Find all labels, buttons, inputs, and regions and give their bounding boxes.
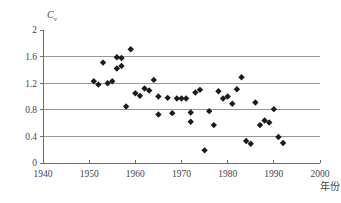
chart-container: 00.40.81.21.62 1940195019601970198019902… [0,0,341,203]
x-axis-title: 年份 [320,180,340,192]
data-point [151,77,157,83]
data-point [123,103,129,109]
y-axis-title: Cv [47,9,58,23]
data-point [252,99,258,105]
data-point [271,106,277,112]
data-point [238,74,244,80]
data-point [275,134,281,140]
data-point [188,119,194,125]
y-tick-label: 1.6 [25,52,37,62]
tick-marks-group [40,30,320,163]
data-point [183,95,189,101]
x-tick-label: 1940 [34,169,53,179]
data-point [229,101,235,107]
y-tick-label: 0.8 [25,105,37,115]
data-points-group [91,46,287,153]
data-point [164,95,170,101]
data-point [169,110,175,116]
data-point [128,46,134,52]
y-axis-tick-labels: 00.40.81.21.62 [25,25,37,168]
data-point [95,81,101,87]
data-point [234,86,240,92]
data-point [155,111,161,117]
y-axis-title-subscript: v [54,15,58,23]
y-tick-label: 0.4 [25,132,37,142]
data-point [155,93,161,99]
data-point [280,140,286,146]
x-axis-tick-labels: 1940195019601970198019902000 [34,169,330,179]
y-tick-label: 0 [32,158,37,168]
y-tick-label: 1.2 [25,79,37,89]
data-point [211,122,217,128]
data-point [201,147,207,153]
x-tick-label: 1990 [264,169,283,179]
data-point [215,88,221,94]
scatter-chart: 00.40.81.21.62 1940195019601970198019902… [0,0,341,203]
data-point [206,108,212,114]
data-point [100,59,106,65]
x-tick-label: 1970 [172,169,191,179]
data-point [118,55,124,61]
x-tick-label: 2000 [311,169,330,179]
x-tick-label: 1950 [80,169,99,179]
data-point [257,122,263,128]
x-tick-label: 1960 [126,169,145,179]
y-tick-label: 2 [32,25,37,35]
x-tick-label: 1980 [218,169,237,179]
